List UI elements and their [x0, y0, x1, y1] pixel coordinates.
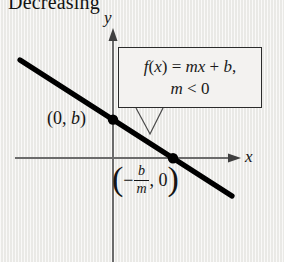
figure-canvas: Decreasing y x (0, b) ( − b m , 0 ) f(x)…: [0, 0, 284, 262]
y-intercept-close-paren: ): [80, 108, 86, 128]
condition-m-symbol: m: [171, 79, 183, 98]
x-intercept-open-paren: (: [112, 162, 123, 196]
fraction-numerator: b: [136, 164, 147, 178]
x-intercept-rest: , 0: [150, 170, 168, 191]
y-intercept-point: [108, 114, 118, 124]
y-intercept-label: (0, b): [47, 108, 86, 129]
equation-m-symbol: m: [186, 57, 198, 76]
y-axis-label: y: [104, 8, 112, 28]
x-intercept-close-paren: ): [168, 162, 179, 196]
equation-x-var: x: [154, 57, 162, 76]
x-intercept-fraction: b m: [134, 164, 148, 196]
fraction-denominator: m: [134, 182, 148, 196]
callout-leader-line: [136, 108, 163, 134]
equation-b-symbol: b: [223, 57, 232, 76]
equation-line-2: m < 0: [171, 78, 210, 100]
x-axis-label: x: [245, 147, 253, 167]
equation-x-symbol: x: [198, 57, 206, 76]
y-intercept-zero: 0,: [53, 108, 71, 128]
figure-title: Decreasing: [8, 0, 100, 14]
equation-line-1: f(x) = mx + b,: [144, 56, 236, 78]
equation-callout-box: f(x) = mx + b, m < 0: [118, 47, 262, 108]
equation-f-of-x: f: [144, 57, 149, 76]
x-intercept-minus-sign: −: [123, 170, 133, 191]
y-axis-arrowhead: [109, 28, 118, 41]
x-intercept-label: ( − b m , 0 ): [112, 163, 179, 197]
y-intercept-b-symbol: b: [71, 108, 80, 128]
x-axis-arrowhead: [228, 154, 241, 163]
graph-svg: [0, 0, 284, 262]
